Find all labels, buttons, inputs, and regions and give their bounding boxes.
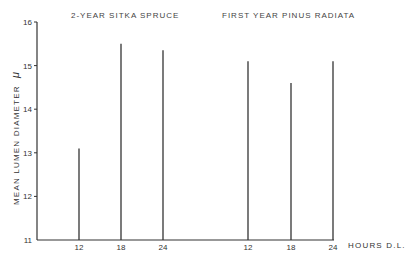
y-ticks: 111213141516 (23, 18, 37, 245)
y-axis-title: MEAN LUMEN DIAMETER (12, 85, 21, 205)
y-tick-label: 13 (23, 149, 32, 158)
x-axis-title: HOURS D.L. (348, 241, 406, 250)
x-tick-label: 18 (287, 243, 296, 252)
y-tick-label: 16 (23, 18, 32, 27)
group-title-pinus-radiata: FIRST YEAR PINUS RADIATA (222, 11, 355, 20)
x-tick-label: 12 (244, 243, 253, 252)
y-tick-label: 14 (23, 105, 32, 114)
group-title-sitka-spruce: 2-YEAR SITKA SPRUCE (71, 11, 179, 20)
x-tick-label: 12 (75, 243, 84, 252)
x-tick-label: 18 (117, 243, 126, 252)
chart: 2-YEAR SITKA SPRUCE FIRST YEAR PINUS RAD… (0, 0, 413, 256)
x-ticks: 121824121824 (75, 243, 338, 252)
x-tick-label: 24 (159, 243, 168, 252)
y-tick-label: 15 (23, 62, 32, 71)
y-tick-label: 12 (23, 192, 32, 201)
x-tick-label: 24 (329, 243, 338, 252)
y-tick-label: 11 (24, 236, 33, 245)
bars (79, 44, 333, 240)
y-axis-unit: μ (9, 72, 21, 79)
